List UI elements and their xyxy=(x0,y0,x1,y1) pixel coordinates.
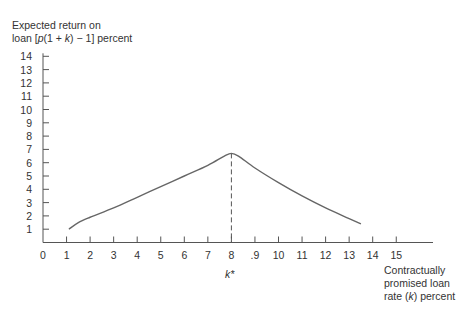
y-tick-label: 10 xyxy=(20,104,32,116)
x-tick-label: 6 xyxy=(181,249,187,261)
y-tick-label: 13 xyxy=(20,64,32,76)
expected-return-curve xyxy=(69,153,361,229)
x-tick-label: 2 xyxy=(87,249,93,261)
y-tick-label: 11 xyxy=(21,90,32,102)
y-tick-label: 7 xyxy=(26,143,32,155)
x-tick-label: 12 xyxy=(320,249,332,261)
x-tick-label: .9 xyxy=(251,249,260,261)
x-tick-label: 3 xyxy=(111,249,117,261)
x-tick-label: 11 xyxy=(297,249,308,261)
x-tick-label: 4 xyxy=(134,249,140,261)
k-star-label: k* xyxy=(225,268,234,280)
y-tick-label: 2 xyxy=(26,210,32,222)
x-tick-label: 10 xyxy=(273,249,285,261)
x-tick-label: 5 xyxy=(158,249,164,261)
x-tick-label: 1 xyxy=(64,249,70,261)
x-tick-label: 8 xyxy=(228,249,234,261)
x-axis-title: Contractually promised loan rate (k) per… xyxy=(384,264,455,303)
y-tick-label: 14 xyxy=(20,50,32,62)
y-tick-label: 8 xyxy=(26,130,32,142)
x-tick-label: 13 xyxy=(343,249,355,261)
y-tick-label: 9 xyxy=(26,117,32,129)
x-tick-label: 14 xyxy=(367,249,379,261)
y-tick-label: 1 xyxy=(26,223,32,235)
y-tick-label: 3 xyxy=(26,197,32,209)
y-tick-label: 4 xyxy=(26,183,32,195)
x-tick-label: 7 xyxy=(205,249,211,261)
x-tick-label: 0 xyxy=(40,249,46,261)
y-tick-label: 5 xyxy=(26,170,32,182)
y-tick-label: 12 xyxy=(20,77,32,89)
x-tick-label: 15 xyxy=(390,249,402,261)
y-tick-label: 6 xyxy=(26,157,32,169)
